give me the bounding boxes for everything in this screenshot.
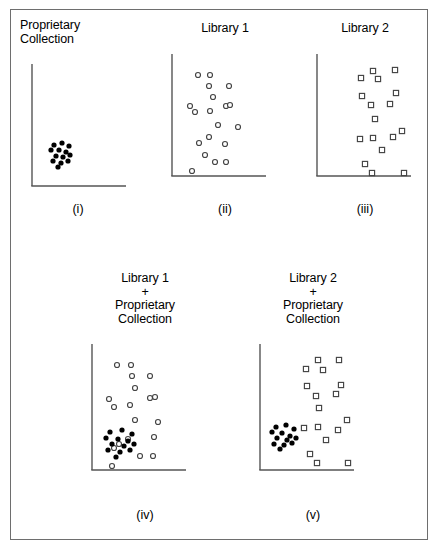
- data-point-open-circle: [207, 134, 212, 139]
- data-point-open-circle: [188, 103, 193, 108]
- data-point-filled-circle: [67, 152, 72, 157]
- data-point-filled-circle: [59, 140, 64, 145]
- data-point-open-square: [359, 93, 364, 98]
- data-point-filled-circle: [279, 430, 284, 435]
- data-point-open-square: [362, 161, 367, 166]
- data-point-open-square: [344, 417, 349, 422]
- data-point-filled-circle: [277, 446, 282, 451]
- data-point-open-circle: [193, 109, 198, 114]
- data-point-open-square: [401, 170, 406, 175]
- panel-plot-ii: [160, 44, 290, 197]
- data-point-open-square: [304, 383, 309, 388]
- data-point-open-square: [370, 68, 375, 73]
- data-point-open-square: [375, 76, 380, 81]
- panel-plot-i: [18, 54, 138, 196]
- data-point-filled-circle: [283, 422, 288, 427]
- panel-label-i: (i): [18, 202, 138, 216]
- data-point-open-circle: [107, 397, 112, 402]
- data-point-open-circle: [208, 72, 213, 77]
- data-point-open-circle: [156, 420, 161, 425]
- data-point-open-square: [370, 135, 375, 140]
- data-point-open-square: [301, 425, 306, 430]
- data-point-filled-circle: [131, 441, 136, 446]
- panel-title-iii: Library 2: [300, 22, 430, 36]
- data-point-filled-circle: [284, 437, 289, 442]
- data-point-open-circle: [148, 374, 153, 379]
- data-point-open-square: [399, 128, 404, 133]
- panel-plot-v: [248, 334, 378, 502]
- data-point-open-square: [372, 116, 377, 121]
- data-point-open-square: [336, 357, 341, 362]
- data-point-filled-circle: [51, 142, 56, 147]
- panel-plot-iv: [80, 334, 210, 502]
- data-point-open-square: [345, 460, 350, 465]
- data-point-filled-circle: [56, 147, 61, 152]
- data-point-open-circle: [216, 122, 221, 127]
- data-point-open-circle: [133, 418, 138, 423]
- data-point-open-circle: [228, 102, 233, 107]
- data-point-filled-circle: [55, 164, 60, 169]
- data-point-open-circle: [151, 454, 156, 459]
- data-point-filled-circle: [66, 143, 71, 148]
- data-point-filled-circle: [105, 447, 110, 452]
- data-point-open-circle: [190, 168, 195, 173]
- data-point-filled-circle: [291, 426, 296, 431]
- data-point-open-circle: [197, 140, 202, 145]
- data-point-open-circle: [115, 363, 120, 368]
- data-point-filled-circle: [65, 158, 70, 163]
- data-point-filled-circle: [107, 429, 112, 434]
- data-point-open-circle: [148, 396, 153, 401]
- figure-root: Proprietary Collection(i)Library 1(ii)Li…: [0, 0, 440, 559]
- data-point-filled-circle: [115, 436, 120, 441]
- panel-title-v: Library 2 + Proprietary Collection: [246, 272, 380, 326]
- data-point-filled-circle: [125, 438, 130, 443]
- data-point-filled-circle: [129, 431, 134, 436]
- panel-plot-iii: [305, 44, 435, 197]
- data-point-open-square: [320, 367, 325, 372]
- panel-label-v: (v): [246, 508, 380, 522]
- data-point-filled-circle: [273, 424, 278, 429]
- data-point-open-circle: [203, 152, 208, 157]
- panel-label-ii: (ii): [160, 202, 290, 216]
- data-point-open-circle: [213, 159, 218, 164]
- data-point-open-circle: [224, 159, 229, 164]
- data-point-open-square: [338, 382, 343, 387]
- data-point-open-circle: [196, 72, 201, 77]
- data-point-open-circle: [128, 403, 133, 408]
- data-point-filled-circle: [281, 442, 286, 447]
- data-point-open-circle: [152, 435, 157, 440]
- data-point-filled-circle: [50, 158, 55, 163]
- data-point-open-square: [392, 67, 397, 72]
- data-point-filled-circle: [269, 429, 274, 434]
- data-point-open-square: [369, 170, 374, 175]
- panel-title-i: Proprietary Collection: [20, 19, 138, 46]
- data-point-open-square: [333, 391, 338, 396]
- data-point-open-circle: [211, 94, 216, 99]
- data-point-open-circle: [153, 395, 158, 400]
- data-point-open-square: [387, 101, 392, 106]
- data-point-filled-circle: [103, 435, 108, 440]
- data-point-open-circle: [112, 405, 117, 410]
- data-point-open-circle: [223, 141, 228, 146]
- data-point-open-circle: [130, 374, 135, 379]
- data-point-open-square: [303, 366, 308, 371]
- data-point-filled-circle: [117, 449, 122, 454]
- data-point-filled-circle: [274, 435, 279, 440]
- panel-title-iv: Library 1 + Proprietary Collection: [78, 272, 212, 326]
- data-point-filled-circle: [119, 427, 124, 432]
- data-point-open-square: [323, 437, 328, 442]
- data-point-open-square: [358, 75, 363, 80]
- data-point-open-circle: [207, 83, 212, 88]
- panel-label-iii: (iii): [300, 202, 430, 216]
- data-point-open-circle: [133, 386, 138, 391]
- data-point-open-circle: [110, 464, 115, 469]
- data-point-filled-circle: [289, 440, 294, 445]
- data-point-open-square: [335, 427, 340, 432]
- data-point-open-square: [357, 136, 362, 141]
- data-point-filled-circle: [293, 435, 298, 440]
- data-point-filled-circle: [121, 443, 126, 448]
- data-point-open-square: [314, 460, 319, 465]
- data-point-filled-circle: [109, 441, 114, 446]
- data-point-open-square: [368, 102, 373, 107]
- data-point-filled-circle: [271, 441, 276, 446]
